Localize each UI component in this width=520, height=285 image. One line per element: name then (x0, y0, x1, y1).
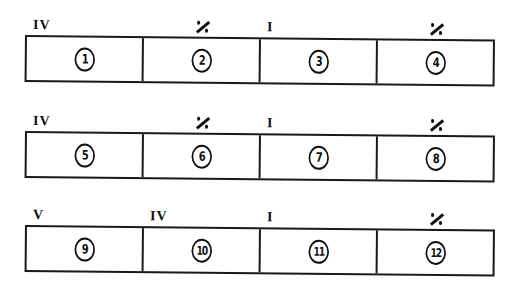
measure-1: IV 1 (27, 37, 144, 81)
measure-number-icon: 11 (308, 239, 329, 263)
measure-number-icon: 5 (74, 143, 95, 167)
measure-2: 2 (144, 38, 261, 82)
measure-number-icon: 4 (425, 50, 446, 74)
repeat-sign-icon (428, 211, 444, 227)
measure-strip: IV 5 6 I 7 8 (25, 131, 495, 183)
measure-number-icon: 3 (308, 49, 329, 73)
repeat-sign-icon (194, 19, 210, 35)
measure-number-icon: 8 (425, 146, 446, 170)
measure-12: 12 (378, 230, 493, 274)
chord-chart-row-3: V 9 IV 10 I 11 12 (25, 225, 495, 277)
chord-label: V (33, 208, 44, 222)
measure-6: 6 (144, 134, 261, 178)
chord-chart-row-1: IV 1 2 I 3 4 (25, 35, 495, 87)
chord-label: I (267, 210, 274, 224)
measure-strip: V 9 IV 10 I 11 12 (25, 225, 495, 277)
chord-label: IV (33, 114, 51, 128)
measure-5: IV 5 (27, 133, 144, 177)
measure-8: 8 (378, 136, 493, 180)
chord-label: I (267, 116, 274, 130)
measure-10: IV 10 (144, 228, 261, 272)
measure-3: I 3 (261, 39, 378, 83)
chord-chart-row-2: IV 5 6 I 7 8 (25, 131, 495, 183)
measure-7: I 7 (261, 135, 378, 179)
measure-strip: IV 1 2 I 3 4 (25, 35, 495, 87)
measure-number-icon: 10 (191, 238, 212, 262)
measure-number-icon: 12 (425, 240, 446, 264)
measure-number-icon: 6 (191, 144, 212, 168)
measure-number-icon: 9 (74, 237, 95, 261)
repeat-sign-icon (428, 117, 444, 133)
measure-4: 4 (378, 40, 493, 84)
measure-number-icon: 1 (74, 47, 95, 71)
measure-number-icon: 7 (308, 145, 329, 169)
measure-9: V 9 (27, 227, 144, 271)
chord-label: IV (33, 18, 51, 32)
repeat-sign-icon (194, 115, 210, 131)
repeat-sign-icon (428, 21, 444, 37)
measure-number-icon: 2 (191, 48, 212, 72)
chord-label: I (267, 20, 274, 34)
chord-label: IV (150, 209, 168, 223)
measure-11: I 11 (261, 229, 378, 273)
